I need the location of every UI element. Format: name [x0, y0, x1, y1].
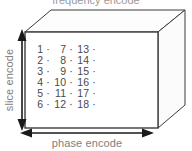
- phase-encode-axis: phase encode: [20, 129, 154, 150]
- grid-separator-dot: ·: [92, 98, 96, 110]
- top-caption-cutoff: frequency encode: [52, 0, 139, 6]
- grid-number: 6: [37, 98, 43, 110]
- diagram-canvas: frequency encode 1·7·13·2·8·14·3·9·15·4·…: [0, 0, 192, 151]
- phase-axis-arrow-right-icon: [142, 129, 154, 138]
- phase-encode-label: phase encode: [52, 137, 122, 149]
- slice-encode-axis: slice encode: [3, 29, 27, 131]
- box-top-face: [25, 10, 185, 32]
- grid-separator-dot: ·: [69, 98, 73, 110]
- grid-separator-dot: ·: [46, 98, 50, 110]
- grid-number: 18: [77, 98, 89, 110]
- slice-encode-label: slice encode: [3, 49, 15, 111]
- grid-number: 12: [54, 98, 66, 110]
